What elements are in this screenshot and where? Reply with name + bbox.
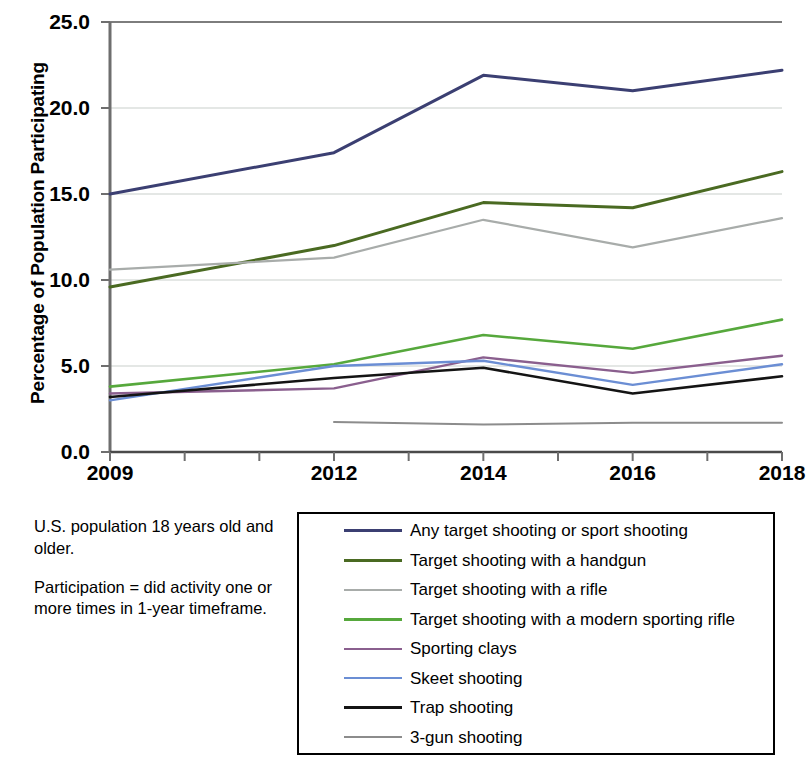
chart-notes: U.S. population 18 years old and older. … [34,516,274,620]
legend-item-label: Target shooting with a handgun [410,552,646,569]
legend-item[interactable]: Skeet shooting [299,664,773,694]
legend-item-label: Sporting clays [410,640,517,657]
series-line-6 [110,368,782,397]
legend-color-swatch [344,618,402,621]
legend-item[interactable]: Trap shooting [299,693,773,723]
note-population: U.S. population 18 years old and older. [34,516,274,560]
x-axis-tick-label: 2016 [573,462,693,483]
legend-color-swatch [344,706,402,709]
legend-item[interactable]: Sporting clays [299,634,773,664]
series-line-3 [110,320,782,387]
series-line-7 [334,422,782,425]
series-line-2 [110,218,782,270]
legend-item[interactable]: Target shooting with a modern sporting r… [299,605,773,635]
legend-item-label: Any target shooting or sport shooting [410,522,688,539]
legend-item[interactable]: Target shooting with a handgun [299,546,773,576]
legend-color-swatch [344,589,402,591]
legend-item-label: 3-gun shooting [410,729,522,746]
legend-color-swatch [344,529,402,532]
legend-item-label: Target shooting with a modern sporting r… [410,611,735,628]
x-axis-tick-label: 2018 [722,462,808,483]
legend-item[interactable]: Any target shooting or sport shooting [299,516,773,546]
legend-item-label: Trap shooting [410,699,513,716]
series-line-0 [110,70,782,194]
x-axis-tick-label: 2012 [274,462,394,483]
legend-item[interactable]: 3-gun shooting [299,723,773,753]
chart-legend: Any target shooting or sport shootingTar… [297,512,775,755]
legend-color-swatch [344,677,402,679]
legend-item[interactable]: Target shooting with a rifle [299,575,773,605]
x-axis-tick-label: 2014 [423,462,543,483]
x-axis-tick-label: 2009 [50,462,170,483]
legend-item-label: Target shooting with a rifle [410,581,608,598]
legend-color-swatch [344,736,402,738]
legend-items: Any target shooting or sport shootingTar… [299,516,773,752]
legend-color-swatch [344,648,402,650]
legend-item-label: Skeet shooting [410,670,522,687]
chart-container: Percentage of Population Participating 2… [0,0,808,500]
note-participation-definition: Participation = did activity one or more… [34,577,274,621]
plot-area [0,0,808,500]
legend-color-swatch [344,559,402,562]
